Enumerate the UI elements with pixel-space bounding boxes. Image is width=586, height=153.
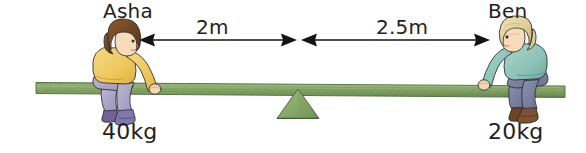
- person-asha: [93, 19, 161, 125]
- label-distance-left: 2m: [196, 17, 229, 37]
- label-distance-right: 2.5m: [376, 17, 428, 37]
- asha-eye: [132, 40, 135, 43]
- asha-hand: [149, 84, 161, 94]
- label-person-name-ben: Ben: [488, 1, 527, 21]
- label-mass-ben: 20kg: [488, 121, 544, 143]
- label-mass-asha: 40kg: [102, 121, 158, 143]
- label-person-name-asha: Asha: [103, 1, 153, 21]
- ben-eye: [506, 36, 509, 39]
- asha-leg-front: [117, 83, 134, 113]
- person-ben: [478, 16, 548, 123]
- seesaw-diagram: Asha Ben 2m 2.5m 40kg 20kg: [0, 0, 586, 153]
- ben-hand: [478, 80, 490, 90]
